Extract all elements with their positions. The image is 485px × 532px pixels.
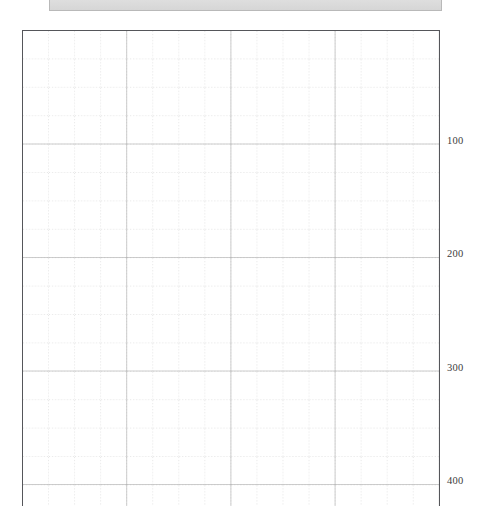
y-axis-tick-label: 100 — [447, 136, 464, 147]
chart-axis-top — [22, 30, 440, 31]
y-axis-tick-label: 400 — [447, 476, 464, 487]
minor-gridlines — [22, 30, 440, 506]
chart-plot-area[interactable] — [22, 30, 440, 506]
toolbar-strip[interactable] — [49, 0, 442, 11]
y-axis-tick-label: 300 — [447, 363, 464, 374]
major-gridlines — [22, 30, 440, 506]
chart-axis-right — [439, 30, 440, 506]
y-axis-tick-label: 200 — [447, 249, 464, 260]
chart-axis-left — [22, 30, 23, 506]
